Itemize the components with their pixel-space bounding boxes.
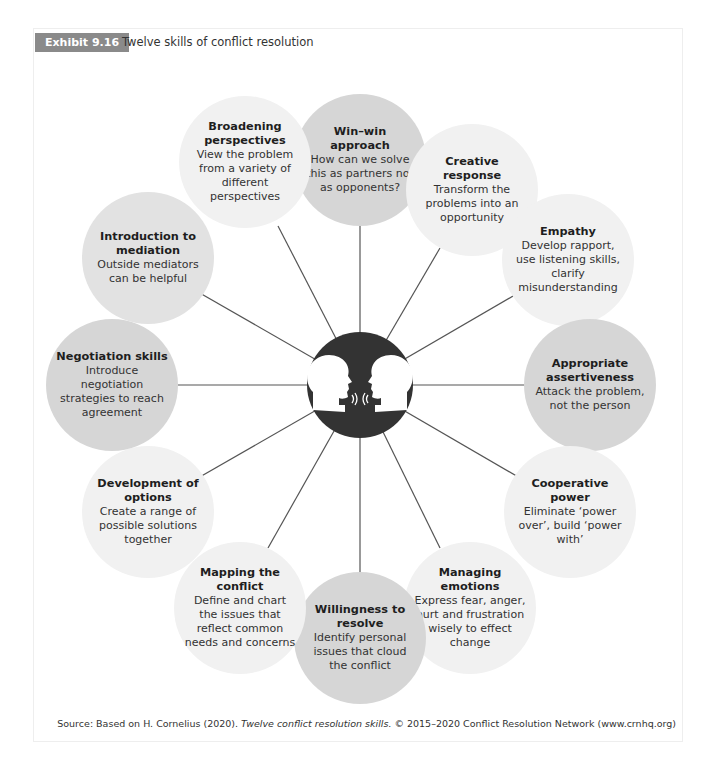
skill-cooperative-power: Cooperative power Eliminate ‘power over’…	[504, 446, 636, 578]
skill-desc: View the problem from a variety of diffe…	[189, 148, 301, 204]
skill-title: Willingness to resolve	[304, 603, 416, 631]
source-work-title: Twelve conflict resolution skills.	[241, 718, 391, 729]
skill-appropriate-assertiveness: Appropriate assertiveness Attack the pro…	[524, 319, 656, 451]
two-heads-facing-icon	[307, 332, 413, 438]
skill-desc: Express fear, anger, hurt and frustratio…	[414, 594, 526, 650]
skill-desc: Attack the problem, not the person	[534, 385, 646, 413]
skill-title: Broadening perspectives	[189, 120, 301, 148]
skill-desc: How can we solve this as partners not as…	[304, 153, 416, 195]
skill-title: Development of options	[92, 477, 204, 505]
skill-desc: Develop rapport, use listening skills, c…	[512, 239, 624, 295]
skill-development-of-options: Development of options Create a range of…	[82, 446, 214, 578]
skill-mapping-the-conflict: Mapping the conflict Define and chart th…	[174, 542, 306, 674]
skill-title: Appropriate assertiveness	[534, 357, 646, 385]
skill-desc: Eliminate ‘power over’, build ‘power wit…	[514, 505, 626, 547]
skill-introduction-to-mediation: Introduction to mediation Outside mediat…	[82, 192, 214, 324]
skill-title: Introduction to mediation	[92, 230, 204, 258]
source-suffix: © 2015–2020 Conflict Resolution Network …	[391, 718, 676, 729]
skill-desc: Outside mediators can be helpful	[92, 258, 204, 286]
source-citation: Source: Based on H. Cornelius (2020). Tw…	[0, 718, 676, 729]
skill-title: Negotiation skills	[56, 350, 167, 364]
skill-desc: Identify personal issues that cloud the …	[304, 631, 416, 673]
skill-title: Win–win approach	[304, 125, 416, 153]
skill-broadening-perspectives: Broadening perspectives View the problem…	[179, 96, 311, 228]
skill-negotiation-skills: Negotiation skills Introduce negotiation…	[46, 319, 178, 451]
skill-empathy: Empathy Develop rapport, use listening s…	[502, 194, 634, 326]
skill-title: Creative response	[416, 155, 528, 183]
skill-willingness-to-resolve: Willingness to resolve Identify personal…	[294, 572, 426, 704]
source-prefix: Source: Based on H. Cornelius (2020).	[57, 718, 241, 729]
skill-title: Managing emotions	[414, 566, 526, 594]
skill-desc: Define and chart the issues that reflect…	[184, 594, 296, 650]
skill-desc: Transform the problems into an opportuni…	[416, 183, 528, 225]
skill-win-win-approach: Win–win approach How can we solve this a…	[294, 94, 426, 226]
skill-desc: Create a range of possible solutions tog…	[92, 505, 204, 547]
skill-desc: Introduce negotiation strategies to reac…	[56, 364, 168, 420]
skill-title: Mapping the conflict	[184, 566, 296, 594]
skill-title: Cooperative power	[514, 477, 626, 505]
skill-title: Empathy	[540, 225, 596, 239]
